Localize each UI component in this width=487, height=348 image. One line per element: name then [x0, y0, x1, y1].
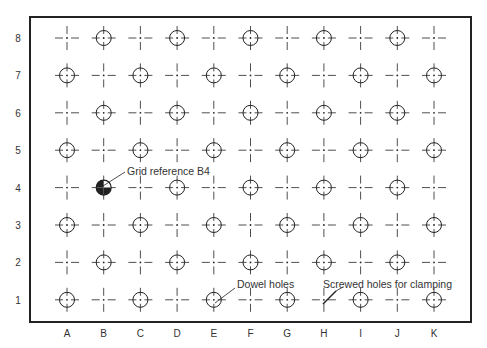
column-label-E: E — [210, 328, 217, 339]
marker-A8-cross — [55, 26, 79, 50]
grid-plate-diagram: 87654321 ABCDEFGHIJK Grid reference B4 D… — [0, 0, 487, 348]
marker-D5-cross — [165, 138, 189, 162]
marker-D4-circle — [165, 176, 189, 200]
marker-I1-circle — [349, 288, 373, 312]
marker-J2-circle — [385, 250, 409, 274]
marker-F2-circle — [239, 250, 263, 274]
column-label-K: K — [431, 328, 438, 339]
marker-G5-circle — [275, 138, 299, 162]
marker-H7-cross — [312, 63, 336, 87]
annotation-dowel-holes-text: Dowel holes — [237, 278, 294, 290]
marker-D2-circle — [165, 250, 189, 274]
marker-J3-cross — [385, 213, 409, 237]
marker-I8-cross — [349, 26, 373, 50]
marker-G7-circle — [275, 63, 299, 87]
column-label-C: C — [137, 328, 144, 339]
marker-F1-cross — [239, 288, 263, 312]
marker-A2-cross — [55, 250, 79, 274]
marker-K4-cross — [422, 176, 446, 200]
marker-B8-circle — [92, 26, 116, 50]
row-label-5: 5 — [15, 145, 21, 156]
row-label-2: 2 — [15, 257, 21, 268]
marker-H6-circle — [312, 101, 336, 125]
marker-K5-circle — [422, 138, 446, 162]
marker-C1-circle — [128, 288, 152, 312]
marker-I5-circle — [349, 138, 373, 162]
marker-C2-cross — [128, 250, 152, 274]
marker-C7-circle — [128, 63, 152, 87]
marker-B6-circle — [92, 101, 116, 125]
marker-F4-circle — [239, 176, 263, 200]
marker-C4-cross — [128, 176, 152, 200]
marker-J1-cross — [385, 288, 409, 312]
marker-H2-circle — [312, 250, 336, 274]
row-label-3: 3 — [15, 220, 21, 231]
marker-J4-circle — [385, 176, 409, 200]
annotation-screwed-holes-text: Screwed holes for clamping — [323, 278, 452, 290]
annotation-grid-reference: Grid reference B4 — [103, 165, 210, 186]
marker-I7-circle — [349, 63, 373, 87]
marker-B4-filled — [92, 176, 116, 200]
marker-I2-cross — [349, 250, 373, 274]
marker-I6-cross — [349, 101, 373, 125]
marker-B5-cross — [92, 138, 116, 162]
marker-E7-circle — [202, 63, 226, 87]
column-label-H: H — [320, 328, 327, 339]
marker-A6-cross — [55, 101, 79, 125]
marker-D8-circle — [165, 26, 189, 50]
column-label-D: D — [173, 328, 180, 339]
column-labels: ABCDEFGHIJK — [64, 328, 438, 339]
marker-F6-circle — [239, 101, 263, 125]
row-label-8: 8 — [15, 33, 21, 44]
marker-F8-circle — [239, 26, 263, 50]
marker-B7-cross — [92, 63, 116, 87]
annotation-dowel-holes: Dowel holes — [215, 278, 294, 303]
row-label-4: 4 — [15, 183, 21, 194]
marker-C8-cross — [128, 26, 152, 50]
marker-B1-cross — [92, 288, 116, 312]
marker-B3-cross — [92, 213, 116, 237]
column-label-B: B — [100, 328, 107, 339]
marker-E8-cross — [202, 26, 226, 50]
marker-J8-circle — [385, 26, 409, 50]
marker-D6-circle — [165, 101, 189, 125]
row-label-1: 1 — [15, 295, 21, 306]
column-label-I: I — [359, 328, 362, 339]
marker-H5-cross — [312, 138, 336, 162]
column-label-A: A — [64, 328, 71, 339]
row-label-6: 6 — [15, 108, 21, 119]
marker-A5-circle — [55, 138, 79, 162]
marker-C5-circle — [128, 138, 152, 162]
marker-K2-cross — [422, 250, 446, 274]
marker-J5-cross — [385, 138, 409, 162]
marker-K8-cross — [422, 26, 446, 50]
marker-J6-circle — [385, 101, 409, 125]
marker-G6-cross — [275, 101, 299, 125]
marker-G8-cross — [275, 26, 299, 50]
marker-E6-cross — [202, 101, 226, 125]
grid-markers — [55, 26, 446, 312]
marker-E3-circle — [202, 213, 226, 237]
plate-frame — [30, 17, 471, 322]
marker-H3-cross — [312, 213, 336, 237]
column-label-J: J — [395, 328, 400, 339]
column-label-F: F — [247, 328, 253, 339]
marker-H8-circle — [312, 26, 336, 50]
marker-E4-cross — [202, 176, 226, 200]
marker-E1-circle — [202, 288, 226, 312]
marker-K3-circle — [422, 213, 446, 237]
marker-A1-circle — [55, 288, 79, 312]
marker-G4-cross — [275, 176, 299, 200]
marker-E5-circle — [202, 138, 226, 162]
marker-K7-circle — [422, 63, 446, 87]
marker-F5-cross — [239, 138, 263, 162]
marker-I4-cross — [349, 176, 373, 200]
marker-D7-cross — [165, 63, 189, 87]
annotation-grid-reference-text: Grid reference B4 — [127, 165, 210, 177]
marker-C6-cross — [128, 101, 152, 125]
marker-B2-circle — [92, 250, 116, 274]
marker-D3-cross — [165, 213, 189, 237]
marker-H4-circle — [312, 176, 336, 200]
row-labels: 87654321 — [15, 33, 21, 306]
marker-H1-cross — [312, 288, 336, 312]
